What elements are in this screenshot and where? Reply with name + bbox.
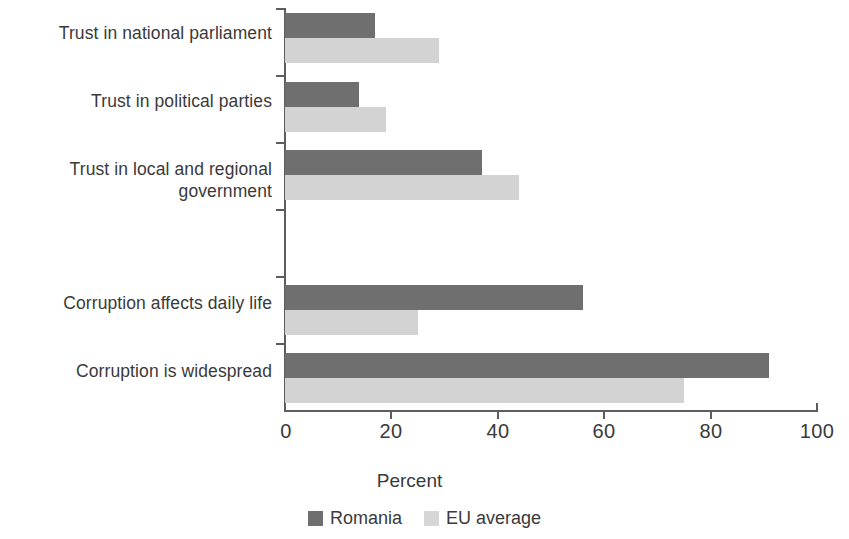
legend-item-romania: Romania [308,508,402,529]
bar-eu-average [285,175,519,200]
bar-romania [285,82,359,107]
bar-romania [285,353,769,378]
x-axis-tick [497,410,499,419]
x-axis-title-text: Percent [377,470,442,491]
x-tick-label: 60 [593,420,616,443]
x-axis-tick [390,410,392,419]
bar-romania [285,285,583,310]
bar-eu-average [285,310,418,335]
category-label: Corruption affects daily life [63,292,272,314]
legend-item-eu-average: EU average [424,508,541,529]
x-tick-label: 0 [280,420,291,443]
y-axis-tick [276,209,285,211]
y-axis-tick [276,75,285,77]
light-gray-swatch-icon [424,511,439,526]
category-label: Trust in local and regional government [70,158,272,202]
chart-legend: Romania EU average [0,508,849,529]
x-axis-tick [603,410,605,419]
legend-label: Romania [330,508,402,529]
bar-eu-average [285,107,386,132]
y-axis-tick [276,276,285,278]
x-tick-label: 40 [487,420,510,443]
bar-eu-average [285,38,439,63]
category-label: Trust in political parties [91,90,272,112]
x-axis-line [284,410,818,412]
x-tick-label: 100 [800,420,834,443]
x-axis-title: Percent [0,470,849,492]
x-axis-tick [710,410,712,419]
bar-eu-average [285,378,684,403]
dark-gray-swatch-icon [308,511,323,526]
category-label: Trust in national parliament [59,22,272,44]
x-axis-tick [816,403,818,412]
legend-label: EU average [446,508,541,529]
y-axis-tick [276,142,285,144]
bar-romania [285,150,482,175]
plot-area [285,8,817,410]
bar-romania [285,13,375,38]
x-tick-label: 80 [700,420,723,443]
x-axis-tick [284,403,286,412]
y-axis-tick [276,8,285,10]
y-axis-tick [276,343,285,345]
x-tick-label: 20 [380,420,403,443]
bar-chart: Trust in national parliament Trust in po… [0,0,849,539]
category-label: Corruption is widespread [76,360,272,382]
